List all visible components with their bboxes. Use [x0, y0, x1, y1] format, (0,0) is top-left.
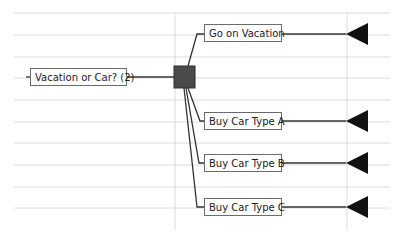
branch-buy-car-type-a[interactable]: Buy Car Type A	[204, 112, 282, 130]
root-node-label[interactable]: Vacation or Car? (2)	[30, 68, 127, 86]
terminal-triangle-icon	[346, 196, 368, 218]
branch-buy-car-type-b[interactable]: Buy Car Type B	[204, 154, 282, 172]
branch-go-on-vacation[interactable]: Go on Vacation	[204, 24, 282, 42]
terminal-triangle-icon	[346, 23, 368, 45]
terminal-triangle-icon	[346, 152, 368, 174]
decision-node-square[interactable]	[174, 66, 195, 88]
terminal-triangle-icon	[346, 110, 368, 132]
decision-tree	[0, 0, 400, 240]
branch-buy-car-type-c[interactable]: Buy Car Type C	[204, 198, 282, 216]
